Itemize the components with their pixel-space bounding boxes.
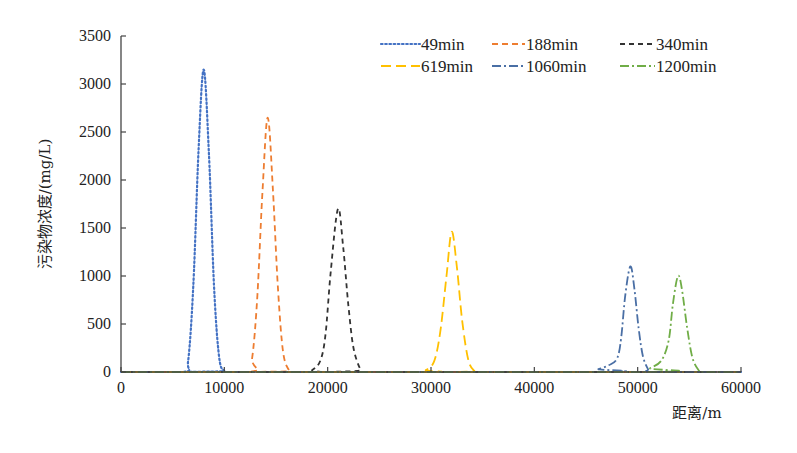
y-tick-label: 1000 xyxy=(79,267,111,284)
legend-item-340min: 340min xyxy=(620,35,708,54)
x-tick-label: 60000 xyxy=(721,379,761,396)
x-tick-label: 10000 xyxy=(204,379,244,396)
legend-label: 49min xyxy=(421,35,465,54)
x-tick-label: 0 xyxy=(117,379,125,396)
series-line-340min xyxy=(121,208,741,372)
legend-item-49min: 49min xyxy=(381,35,465,54)
legend-label: 1060min xyxy=(526,57,587,76)
series-line-188min xyxy=(121,118,741,372)
y-tick-label: 0 xyxy=(103,363,111,380)
y-axis-title: 污染物浓度/(mg/L) xyxy=(36,139,54,270)
x-tick-label: 30000 xyxy=(411,379,451,396)
legend-label: 188min xyxy=(526,35,578,54)
y-tick-label: 500 xyxy=(87,315,111,332)
legend-item-1200min: 1200min xyxy=(620,57,717,76)
series-line-1200min xyxy=(121,276,741,372)
x-tick-label: 40000 xyxy=(514,379,554,396)
y-tick-label: 3500 xyxy=(79,27,111,44)
y-ticks: 0500100015002000250030003500 xyxy=(79,27,126,380)
legend-label: 1200min xyxy=(656,57,717,76)
y-tick-label: 2000 xyxy=(79,171,111,188)
x-tick-label: 20000 xyxy=(308,379,348,396)
legend-label: 619min xyxy=(421,57,473,76)
legend-item-188min: 188min xyxy=(492,35,578,54)
legend-item-619min: 619min xyxy=(381,57,473,76)
x-axis-title: 距离/m xyxy=(672,404,721,422)
series-line-49min xyxy=(121,70,741,372)
y-tick-label: 2500 xyxy=(79,123,111,140)
series-lines xyxy=(121,70,741,372)
y-tick-label: 3000 xyxy=(79,75,111,92)
concentration-distance-chart: 0500100015002000250030003500 01000020000… xyxy=(0,0,797,453)
y-tick-label: 1500 xyxy=(79,219,111,236)
legend-label: 340min xyxy=(656,35,708,54)
x-tick-label: 50000 xyxy=(618,379,658,396)
legend-item-1060min: 1060min xyxy=(492,57,587,76)
axes: 0500100015002000250030003500 01000020000… xyxy=(79,27,761,396)
legend: 49min188min340min619min1060min1200min xyxy=(381,35,717,76)
